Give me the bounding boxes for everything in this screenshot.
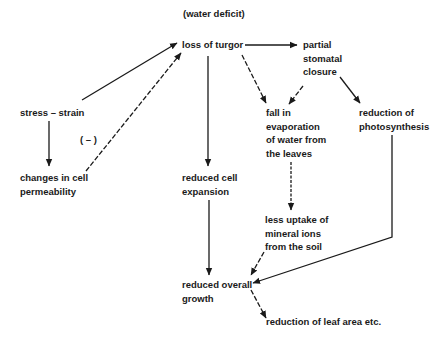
arrow-turgor-to-evaporation — [242, 55, 266, 103]
negative-sign-label: ( – ) — [80, 133, 97, 147]
node-stress-strain: stress – strain — [20, 106, 84, 120]
water-deficit-label: (water deficit) — [183, 7, 245, 21]
node-line: fall in — [266, 106, 326, 120]
node-partial-stomatal-closure: partial stomatal closure — [303, 38, 342, 79]
node-line: permeability — [20, 185, 88, 199]
node-less-uptake-of-mineral-ions: less uptake of mineral ions from the soi… — [265, 213, 328, 254]
node-line: from the soil — [265, 240, 328, 254]
node-line: the leaves — [266, 147, 326, 161]
node-line: reduced cell — [182, 171, 237, 185]
node-fall-in-evaporation: fall in evaporation of water from the le… — [266, 106, 326, 160]
node-reduction-of-photosynthesis: reduction of photosynthesis — [359, 106, 429, 133]
node-line: mineral ions — [265, 227, 328, 241]
node-reduced-cell-expansion: reduced cell expansion — [182, 171, 237, 198]
arrow-closure-to-evaporation — [289, 86, 303, 104]
node-line: reduction of — [359, 106, 429, 120]
node-line: evaporation — [266, 120, 326, 134]
node-line: photosynthesis — [359, 120, 429, 134]
node-line: closure — [303, 65, 342, 79]
node-line: reduced overall — [182, 278, 252, 292]
node-line: partial — [303, 38, 342, 52]
node-loss-of-turgor: loss of turgor — [182, 38, 243, 52]
node-line: expansion — [182, 185, 237, 199]
node-reduction-of-leaf-area: reduction of leaf area etc. — [266, 315, 381, 329]
arrow-closure-to-photosynthesis — [340, 77, 360, 103]
flow-diagram: (water deficit) loss of turgor partial s… — [0, 0, 446, 344]
node-reduced-overall-growth: reduced overall growth — [182, 278, 252, 305]
node-line: less uptake of — [265, 213, 328, 227]
node-line: growth — [182, 292, 252, 306]
node-line: stomatal — [303, 52, 342, 66]
node-line: of water from — [266, 133, 326, 147]
arrow-growth-to-leaf-area — [251, 290, 266, 318]
arrow-permeability-to-turgor — [86, 53, 181, 171]
node-line: changes in cell — [20, 171, 88, 185]
arrow-uptake-to-growth — [251, 252, 264, 275]
node-changes-in-cell-permeability: changes in cell permeability — [20, 171, 88, 198]
arrow-stress-to-turgor — [82, 43, 177, 100]
